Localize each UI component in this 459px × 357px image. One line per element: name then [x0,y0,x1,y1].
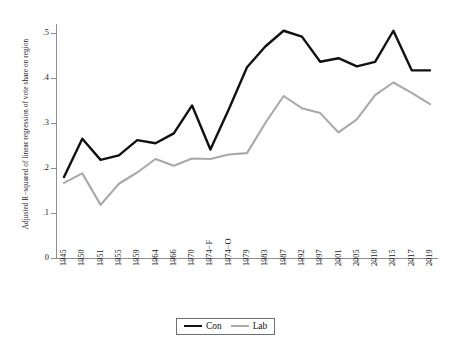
legend-swatch-lab-icon [231,325,249,327]
chart-figure: Adjusted R−squared of linear regression … [0,0,459,357]
y-tick-mark [51,258,56,259]
legend-item-con[interactable]: Con [184,321,222,331]
series-lines [56,24,438,258]
legend-swatch-con-icon [184,325,202,327]
y-tick-label: .2 [43,164,49,172]
legend-label: Lab [253,321,268,331]
legend-label: Con [206,321,222,331]
series-line-con [64,31,430,177]
series-line-lab [64,83,430,205]
legend-item-lab[interactable]: Lab [231,321,268,331]
y-tick-label: .5 [43,29,49,37]
y-tick-label: .3 [43,119,49,127]
chart-legend: ConLab [176,318,275,335]
y-axis-title: Adjusted R−squared of linear regression … [22,4,30,264]
y-tick-label: .4 [43,74,49,82]
plot-area: 0.1.2.3.4.5 1945195019511955195919641966… [56,24,438,258]
y-tick-label: .1 [43,209,49,217]
y-tick-label: 0 [45,254,49,262]
